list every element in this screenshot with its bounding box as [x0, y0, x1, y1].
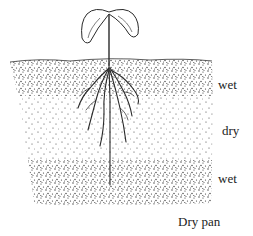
label-dry-pan: Dry pan — [178, 215, 220, 228]
label-lower-wet: wet — [218, 172, 237, 185]
lower-wet-layer — [28, 160, 212, 205]
dry-layer — [18, 96, 213, 160]
seedling-icon — [82, 9, 139, 66]
label-dry: dry — [222, 124, 239, 137]
top-wet-layer — [10, 59, 213, 96]
soil-root-diagram — [0, 0, 253, 236]
label-top-wet: wet — [218, 78, 237, 91]
